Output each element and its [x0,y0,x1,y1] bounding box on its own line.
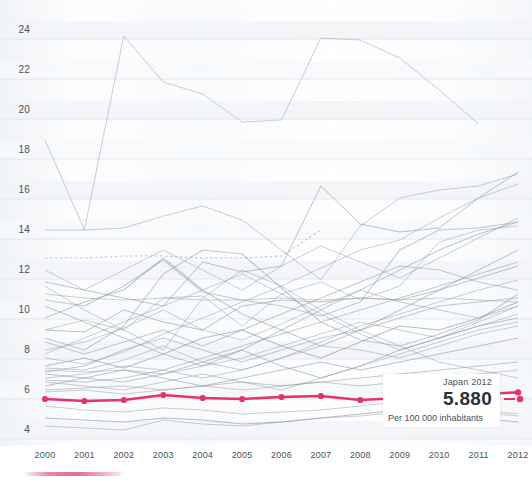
x-axis-tick-label: 2007 [301,450,341,460]
data-point-marker[interactable] [357,397,363,403]
data-point-marker[interactable] [81,398,87,404]
x-axis-tick-label: 2005 [222,450,262,460]
x-axis-tick-label: 2009 [380,450,420,460]
data-point-marker[interactable] [278,394,284,400]
x-axis-tick-label: 2004 [183,450,223,460]
data-point-marker[interactable] [160,392,166,398]
x-axis-tick-label: 2003 [143,450,183,460]
value-callout[interactable]: Japan 2012 5.880 Per 100 000 inhabitants [383,374,500,427]
y-axis-tick-label: 20 [8,104,30,115]
callout-value: 5.880 [443,388,492,410]
callout-title: Japan 2012 [443,377,492,387]
data-point-marker[interactable] [239,396,245,402]
series-line [45,294,518,302]
x-axis-tick-label: 2006 [262,450,302,460]
callout-unit: Per 100 000 inhabitants [388,413,483,423]
x-axis-tick-label: 2010 [419,450,459,460]
y-axis-tick-label: 16 [8,184,30,195]
line-chart-panel: 4681012141618202224 20002001200220032004… [0,0,532,480]
y-axis-tick-label: 10 [8,304,30,315]
x-axis-tick-label: 2001 [64,450,104,460]
y-axis-tick-label: 14 [8,224,30,235]
y-axis-tick-label: 18 [8,144,30,155]
data-point-marker[interactable] [200,395,206,401]
x-axis-tick-label: 2011 [459,450,499,460]
x-axis-tick-label: 2000 [25,450,65,460]
x-axis-tick-label: 2008 [340,450,380,460]
x-axis-tick-label: 2002 [104,450,144,460]
y-axis-tick-label: 4 [8,424,30,435]
y-axis-tick-label: 8 [8,344,30,355]
data-point-marker[interactable] [42,396,48,402]
y-axis-tick-label: 22 [8,64,30,75]
bottom-progress-bar[interactable] [25,472,121,476]
y-axis-tick-label: 12 [8,264,30,275]
data-point-marker[interactable] [121,397,127,403]
y-axis-tick-label: 6 [8,384,30,395]
y-axis-tick-label: 24 [8,24,30,35]
data-point-marker[interactable] [318,393,324,399]
callout-legend-marker [503,394,525,404]
x-axis-tick-label: 2012 [498,450,532,460]
